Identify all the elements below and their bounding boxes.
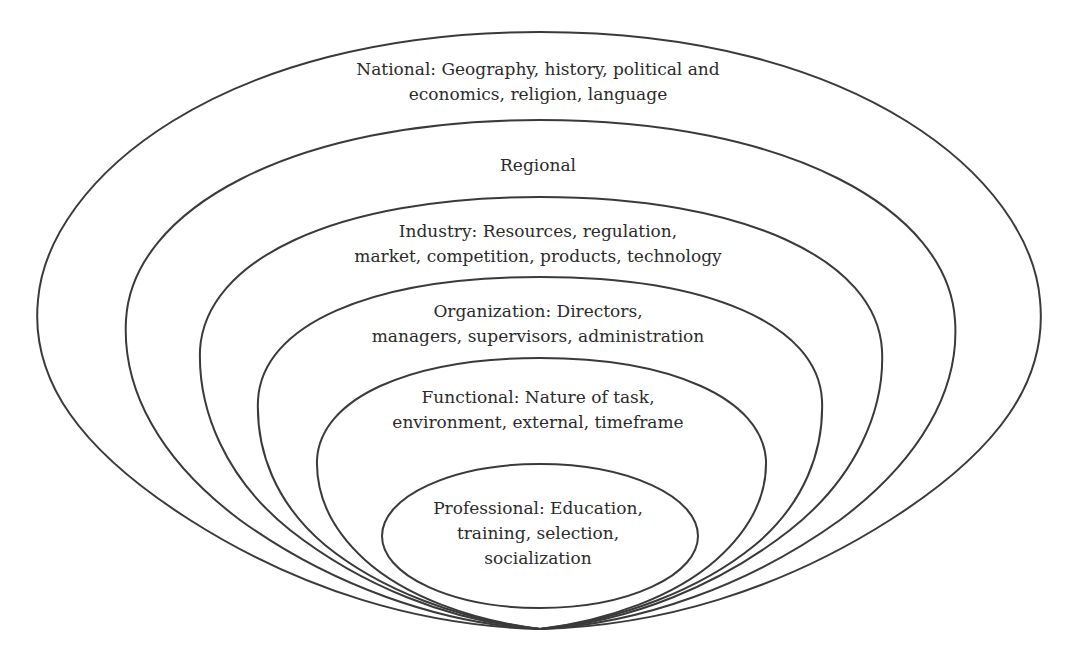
- industry-label-line-2: market, competition, products, technolog…: [0, 244, 1076, 269]
- regional-label-line-1: Regional: [0, 153, 1076, 178]
- organization-label-line-1: Organization: Directors,: [0, 299, 1076, 324]
- professional-label-line-3: socialization: [0, 546, 1076, 571]
- organization-layer-label: Organization: Directors, managers, super…: [0, 299, 1076, 349]
- organization-label-line-2: managers, supervisors, administration: [0, 324, 1076, 349]
- national-layer-label: National: Geography, history, political …: [0, 57, 1076, 107]
- industry-layer-label: Industry: Resources, regulation, market,…: [0, 219, 1076, 269]
- professional-label-line-1: Professional: Education,: [0, 496, 1076, 521]
- professional-label-line-2: training, selection,: [0, 521, 1076, 546]
- professional-layer-label: Professional: Education, training, selec…: [0, 496, 1076, 571]
- culture-layers-diagram: National: Geography, history, political …: [0, 0, 1076, 656]
- functional-label-line-1: Functional: Nature of task,: [0, 385, 1076, 410]
- national-label-line-1: National: Geography, history, political …: [0, 57, 1076, 82]
- functional-layer-label: Functional: Nature of task, environment,…: [0, 385, 1076, 435]
- national-label-line-2: economics, religion, language: [0, 82, 1076, 107]
- industry-label-line-1: Industry: Resources, regulation,: [0, 219, 1076, 244]
- functional-label-line-2: environment, external, timeframe: [0, 410, 1076, 435]
- regional-layer-label: Regional: [0, 153, 1076, 178]
